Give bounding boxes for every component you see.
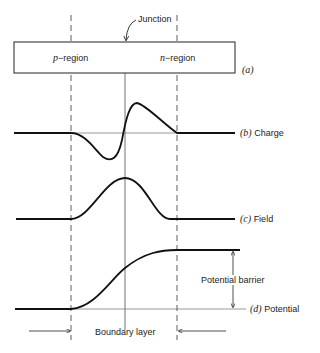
panel-b-label: (b) Charge — [240, 127, 284, 139]
panel-c-label: (c) Field — [240, 213, 273, 225]
semiconductor-bar — [14, 42, 235, 73]
panel-a-tag: (a) — [242, 64, 254, 76]
boundary-layer-label: Boundary layer — [95, 327, 156, 337]
charge-curve — [14, 103, 235, 159]
panel-d-label: (d) Potential — [250, 303, 299, 315]
p-region-label: p−region — [52, 52, 88, 63]
field-curve — [16, 178, 235, 219]
junction-arrow — [126, 20, 136, 40]
potential-barrier-label: Potential barrier — [201, 275, 265, 285]
junction-label: Junction — [138, 14, 172, 24]
pn-junction-diagram: p−region n−region (a) Junction (b) Charg… — [0, 0, 320, 353]
n-region-label: n−region — [160, 52, 195, 63]
